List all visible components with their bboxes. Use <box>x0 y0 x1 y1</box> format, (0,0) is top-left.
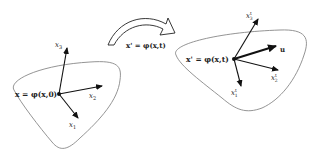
mapping-label: x' = φ(x,t) <box>126 41 166 50</box>
reference-origin-label: x = φ(x,0) <box>15 90 57 99</box>
reference-body-outline <box>13 62 120 149</box>
axis-x3-arrow <box>59 48 67 94</box>
current-origin-label: x' = φ(x,t) <box>186 55 229 64</box>
current-origin-point <box>232 57 236 61</box>
axis-x2-prime-arrow <box>234 59 278 70</box>
reference-origin-point <box>57 92 61 96</box>
axis-x3-prime-label: xt3 <box>246 11 253 21</box>
axis-x1-prime-label: xt1 <box>231 88 238 98</box>
axis-x3-label: x3 <box>55 41 62 50</box>
axis-x2-prime-label: xt2 <box>271 73 278 83</box>
axis-x1-label: x1 <box>69 121 76 130</box>
axis-x2-arrow <box>59 86 102 94</box>
deformation-diagram: x3 x2 x1 x = φ(x,0) x' = φ(x,t) xt3 u xt… <box>0 0 314 158</box>
vector-u-label: u <box>280 45 285 54</box>
axis-x2-label: x2 <box>89 92 96 101</box>
mapping-arrow: x' = φ(x,t) <box>108 18 175 50</box>
current-body: xt3 u xt2 xt1 x' = φ(x,t) <box>176 11 307 111</box>
current-body-outline <box>176 30 307 111</box>
reference-body: x3 x2 x1 x = φ(x,0) <box>13 41 120 148</box>
axis-x1-prime-arrow <box>234 59 241 86</box>
axis-x1-arrow <box>59 94 78 118</box>
